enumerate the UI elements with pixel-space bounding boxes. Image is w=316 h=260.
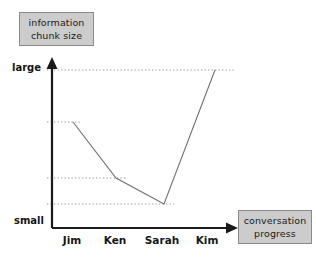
x-axis [52, 223, 238, 234]
data-line-information-chunk-size [73, 70, 215, 204]
y-axis [47, 57, 58, 228]
x-category-label-sarah: Sarah [145, 234, 179, 246]
x-category-label-ken: Ken [104, 234, 127, 246]
x-category-label-jim: Jim [63, 234, 81, 246]
figure-canvas: information chunk size conversation prog… [0, 0, 316, 260]
x-category-label-kim: Kim [196, 234, 219, 246]
plot-area [0, 0, 316, 260]
